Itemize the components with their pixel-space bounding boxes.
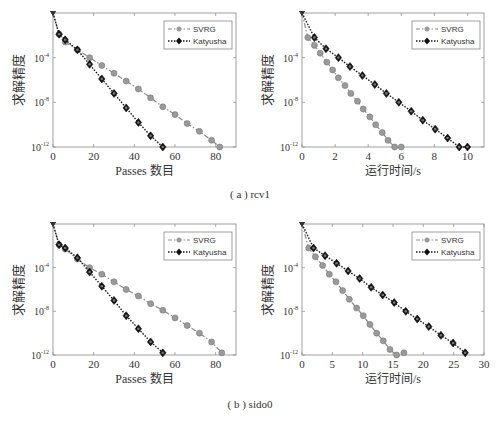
start-marker [299,222,305,227]
katyusha-marker-center [162,352,165,355]
svrg-marker [196,330,202,336]
svrg-marker [360,106,366,112]
katyusha-marker-center [125,107,128,110]
x-tick-label: 80 [210,150,222,162]
svrg-line [302,13,401,147]
chart-sido0-time: 05101520253010-410-810-12运行时间/s求解精度SVRGK… [250,210,500,390]
legend-svrg-label: SVRG [193,236,216,245]
katyusha-marker-center [361,74,364,77]
katyusha-marker-center [446,137,449,140]
x-axis-label: Passes 数目 [115,371,173,386]
katyusha-marker-center [113,299,116,302]
x-tick-label: 20 [88,150,100,162]
svrg-marker [160,104,166,110]
svrg-marker [373,122,379,128]
svrg-marker [342,83,348,89]
katyusha-marker-center [370,286,373,289]
katyusha-marker-center [113,92,116,95]
y-tick-label: 10-8 [34,96,49,108]
katyusha-marker-center [358,277,361,280]
y-tick-label: 10-12 [31,141,49,153]
chart-svg: 02040608010-410-810-12Passes 数目求解精度SVRGK… [0,0,250,180]
svrg-marker [380,338,386,344]
x-tick-label: 25 [448,358,460,370]
x-tick-label: 40 [129,358,141,370]
svrg-marker [346,296,352,302]
katyusha-marker-center [410,110,413,113]
x-tick-label: 15 [388,358,400,370]
katyusha-marker-center [440,334,443,337]
svrg-marker [326,271,332,277]
start-marker [50,11,56,16]
svrg-marker [330,67,336,73]
svrg-marker [360,313,366,319]
svrg-marker [111,279,117,285]
x-tick-label: 6 [399,150,405,162]
svrg-marker [401,350,407,356]
svrg-marker [348,90,354,96]
svrg-marker [324,59,330,65]
x-tick-label: 80 [210,358,222,370]
katyusha-marker-center [416,318,419,321]
x-tick-label: 5 [330,358,336,370]
svrg-marker [387,347,393,353]
svrg-marker [340,288,346,294]
legend-svrg-marker [425,238,430,243]
chart-rcv1-passes: 02040608010-410-810-12Passes 数目求解精度SVRGK… [0,0,250,180]
x-tick-label: 60 [170,358,182,370]
svrg-marker [379,129,385,135]
chart-sido0-passes: 02040608010-410-810-12Passes 数目求解精度SVRGK… [0,210,250,390]
svrg-marker [367,321,373,327]
x-tick-label: 0 [299,150,305,162]
katyusha-marker-center [349,65,352,68]
svrg-marker [354,98,360,104]
svrg-marker [385,137,391,143]
svrg-marker [311,42,317,48]
katyusha-marker-center [452,342,455,345]
x-axis-label: 运行时间/s [365,164,421,178]
x-tick-label: 60 [170,150,182,162]
svrg-marker [135,293,141,299]
katyusha-marker-center [374,83,377,86]
x-tick-label: 10 [357,358,369,370]
katyusha-marker-center [404,310,407,313]
svrg-marker [335,75,341,81]
legend-svrg-label: SVRG [441,25,464,34]
svrg-marker [394,352,400,358]
y-tick-label: 10-12 [31,349,49,361]
katyusha-marker-center [88,271,91,274]
svrg-marker [209,339,215,345]
x-tick-label: 0 [50,358,56,370]
x-tick-label: 0 [50,150,56,162]
y-axis-label: 求解精度 [11,54,26,106]
svrg-marker [209,137,215,143]
x-tick-label: 0 [299,358,305,370]
svrg-marker [320,262,326,268]
katyusha-line [53,13,163,147]
chart-svg: 05101520253010-410-810-12运行时间/s求解精度SVRGK… [250,210,500,390]
svrg-marker [392,144,398,150]
svrg-marker [172,112,178,118]
legend-svrg-marker [425,27,430,32]
katyusha-line [53,224,163,353]
svrg-marker [305,35,311,41]
y-tick-label: 10-4 [283,262,298,274]
katyusha-marker-center [325,47,328,50]
svrg-marker [148,95,154,101]
chart-svg: 024681010-410-810-12运行时间/s求解精度SVRGKatyus… [250,0,500,180]
svrg-marker [374,330,380,336]
katyusha-marker-center [434,128,437,131]
svrg-line [302,224,404,355]
y-tick-label: 10-8 [34,305,49,317]
x-axis-label: 运行时间/s [365,372,421,386]
legend-svrg-label: SVRG [193,25,216,34]
start-marker [299,11,305,16]
svrg-marker [333,279,339,285]
katyusha-marker-center [466,146,469,149]
katyusha-marker-center [76,49,79,52]
caption-b: ( b ) sido0 [150,398,350,410]
x-tick-label: 40 [129,150,141,162]
katyusha-marker-center [64,247,67,250]
svrg-marker [312,254,318,260]
katyusha-marker-center [347,270,350,273]
